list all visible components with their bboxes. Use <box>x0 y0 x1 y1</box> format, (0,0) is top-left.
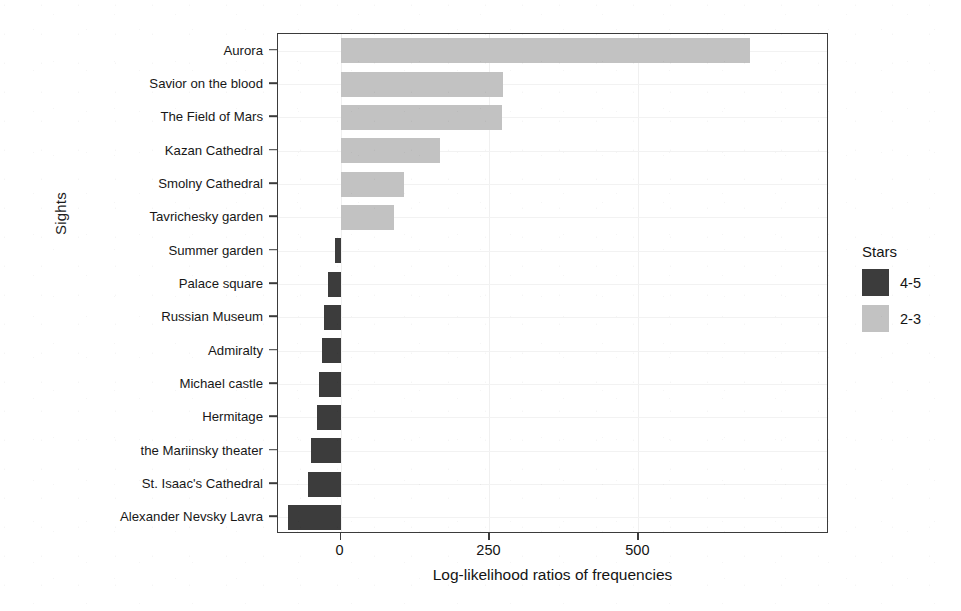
bar <box>317 405 340 430</box>
legend-label: 2-3 <box>900 311 921 327</box>
y-axis-tick-label: Admiralty <box>3 342 263 357</box>
x-axis-tick-label: 250 <box>476 542 500 558</box>
y-axis-tick-label: Alexander Nevsky Lavra <box>3 509 263 524</box>
y-axis-tick-label: Michael castle <box>3 376 263 391</box>
bar <box>341 38 751 63</box>
legend-swatch <box>862 305 889 332</box>
bar <box>322 338 340 363</box>
y-axis-tick-label: St. Isaac's Cathedral <box>3 476 263 491</box>
y-axis-tick-mark <box>269 149 277 151</box>
y-axis-tick-mark <box>269 382 277 384</box>
y-axis-tick-label: Tavrichesky garden <box>3 209 263 224</box>
bar <box>335 238 341 263</box>
y-axis-tick-label: Russian Museum <box>3 309 263 324</box>
x-axis-tick-mark <box>340 533 342 540</box>
bar <box>308 472 341 497</box>
x-axis-tick-mark <box>637 533 639 540</box>
bar <box>341 138 440 163</box>
bar <box>311 438 341 463</box>
y-axis-tick-group: AuroraSavior on the bloodThe Field of Ma… <box>0 33 277 533</box>
y-axis-tick-mark <box>269 516 277 518</box>
y-axis-tick-mark <box>269 449 277 451</box>
x-axis-tick-label: 500 <box>625 542 649 558</box>
x-axis-tick-group: 0250500 <box>277 533 828 563</box>
y-axis-tick-mark <box>269 49 277 51</box>
y-axis-tick-mark <box>269 282 277 284</box>
legend: Stars 4-52-3 <box>862 243 957 341</box>
legend-entry: 2-3 <box>862 305 957 332</box>
bar <box>341 205 394 230</box>
y-axis-tick-mark <box>269 482 277 484</box>
x-axis-tick-mark <box>488 533 490 540</box>
y-axis-tick-label: the Mariinsky theater <box>3 442 263 457</box>
y-axis-tick-label: Hermitage <box>3 409 263 424</box>
y-axis-tick-label: Palace square <box>3 276 263 291</box>
y-axis-tick-mark <box>269 82 277 84</box>
bar <box>341 72 503 97</box>
y-axis-tick-mark <box>269 349 277 351</box>
y-axis-tick-label: Kazan Cathedral <box>3 142 263 157</box>
bar <box>341 105 502 130</box>
x-axis-title: Log-likelihood ratios of frequencies <box>277 566 828 584</box>
bar <box>324 305 341 330</box>
bar <box>341 172 405 197</box>
legend-entry-group: 4-52-3 <box>862 269 957 332</box>
y-axis-tick-label: Aurora <box>3 42 263 57</box>
y-axis-tick-mark <box>269 416 277 418</box>
y-axis-tick-label: Summer garden <box>3 242 263 257</box>
bar-group <box>278 34 827 532</box>
bar <box>319 372 340 397</box>
bar-chart-figure: Sights AuroraSavior on the bloodThe Fiel… <box>0 0 961 611</box>
y-axis-tick-mark <box>269 182 277 184</box>
plot-panel <box>277 33 828 533</box>
y-axis-tick-mark <box>269 116 277 118</box>
bar <box>328 272 341 297</box>
legend-title: Stars <box>862 243 957 260</box>
y-axis-tick-mark <box>269 316 277 318</box>
y-axis-tick-label: Smolny Cathedral <box>3 176 263 191</box>
legend-entry: 4-5 <box>862 269 957 296</box>
y-axis-tick-mark <box>269 249 277 251</box>
x-axis-tick-label: 0 <box>335 542 343 558</box>
y-axis-tick-mark <box>269 216 277 218</box>
bar <box>288 505 340 530</box>
y-axis-tick-label: The Field of Mars <box>3 109 263 124</box>
y-axis-tick-label: Savior on the blood <box>3 76 263 91</box>
legend-swatch <box>862 269 889 296</box>
legend-label: 4-5 <box>900 275 921 291</box>
